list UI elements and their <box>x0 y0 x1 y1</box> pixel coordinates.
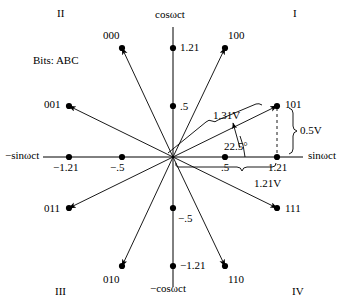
point-label-001: 001 <box>44 99 61 110</box>
tick-label-x-right-outer: 1.21 <box>268 162 287 173</box>
vector-001 <box>69 106 173 157</box>
tick-dot-y-neg0.5 <box>170 205 176 211</box>
quadrant-label-I: I <box>293 8 297 19</box>
tick-dot-y-0.5 <box>170 103 176 109</box>
tick-dot-x-0.5 <box>222 154 228 160</box>
tick-dot-y-1.21 <box>170 45 176 51</box>
axis-label-left: −sinωct <box>5 150 39 161</box>
point-label-110: 110 <box>228 274 244 285</box>
axis-label-bottom: −cosωct <box>150 283 186 294</box>
point-label-011: 011 <box>44 203 60 214</box>
axis-label-right: sinωct <box>308 150 336 161</box>
tick-label-x-right-inner: .5 <box>221 162 229 173</box>
axis-label-top: cosωct <box>155 9 185 20</box>
point-010 <box>119 263 125 269</box>
quadrant-label-IV: IV <box>292 286 304 297</box>
point-001 <box>66 103 72 109</box>
point-label-000: 000 <box>103 30 120 41</box>
vector-000 <box>122 48 173 157</box>
tick-dot-x-neg0.5 <box>119 154 125 160</box>
point-label-111: 111 <box>285 203 301 214</box>
point-label-101: 101 <box>285 99 302 110</box>
vector-010 <box>122 157 173 266</box>
tick-label-x-left-inner: −.5 <box>110 162 124 173</box>
tick-dot-x-1.21 <box>274 154 280 160</box>
tick-label-y-upper: .5 <box>180 101 188 112</box>
bits-note: Bits: ABC <box>33 55 79 66</box>
tick-dot-x-neg1.21 <box>66 154 72 160</box>
tick-label-x-left-outer: −1.21 <box>53 162 78 173</box>
point-000 <box>119 45 125 51</box>
tick-label-y-lower: −.5 <box>178 213 192 224</box>
annotation-horizontal: 1.21V <box>254 178 281 189</box>
annotation-radius: 1.31V <box>213 110 240 121</box>
constellation-diagram <box>0 0 355 308</box>
tick-dot-y-neg1.21 <box>170 263 176 269</box>
point-111 <box>274 205 280 211</box>
point-label-010: 010 <box>103 274 120 285</box>
quadrant-label-III: III <box>55 286 66 297</box>
quadrant-label-II: II <box>57 8 64 19</box>
point-011 <box>66 205 72 211</box>
point-100 <box>222 45 228 51</box>
annotation-vertical: 0.5V <box>300 125 322 136</box>
tick-label-y-bottom: −1.21 <box>180 260 205 271</box>
annotation-angle: 22.5° <box>224 141 248 152</box>
brace-vertical <box>289 108 297 154</box>
brace-vertical-path <box>289 108 297 154</box>
tick-label-y-top: 1.21 <box>180 42 199 53</box>
point-label-100: 100 <box>228 30 245 41</box>
point-110 <box>222 263 228 269</box>
